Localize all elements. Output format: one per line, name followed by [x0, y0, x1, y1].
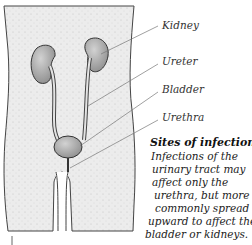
caption-title: Sites of infection	[150, 136, 252, 149]
caption-line: affect only the	[152, 176, 228, 188]
caption-line: Infections of the	[151, 150, 238, 162]
torso-outline	[4, 6, 135, 231]
caption-line: commonly spread	[155, 202, 249, 214]
label-urethra: Urethra	[162, 111, 204, 123]
caption-line: upward to affect the	[148, 215, 252, 227]
caption-line: urinary tract may	[152, 163, 246, 175]
label-kidney: Kidney	[162, 19, 199, 31]
label-bladder: Bladder	[162, 83, 204, 95]
caption-line: bladder or kidneys.	[145, 228, 248, 240]
label-ureter: Ureter	[162, 55, 198, 67]
caption-line: urethra, but more	[154, 189, 249, 201]
bladder	[54, 136, 82, 158]
